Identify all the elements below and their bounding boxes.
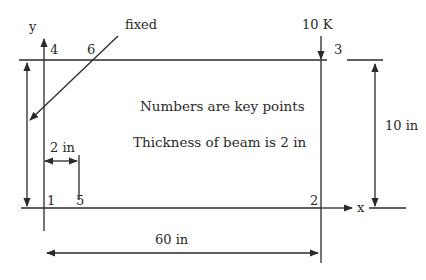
y-axis-label: y: [28, 19, 37, 34]
fixed-label: fixed: [125, 17, 157, 32]
length-dimension-label: 60 in: [155, 232, 189, 247]
note-thickness: Thickness of beam is 2 in: [133, 134, 307, 150]
keypoint-6: 6: [87, 42, 95, 57]
note-keypoints: Numbers are key points: [140, 98, 305, 114]
keypoint-1: 1: [47, 193, 55, 208]
width-dimension-label: 2 in: [50, 140, 76, 155]
keypoint-5: 5: [76, 193, 84, 208]
fixed-leader-arrow: [30, 36, 118, 120]
keypoint-3: 3: [334, 42, 342, 57]
keypoint-2: 2: [310, 193, 318, 208]
x-axis-label: x: [357, 200, 365, 215]
load-label: 10 K: [302, 17, 333, 32]
keypoint-4: 4: [50, 42, 58, 57]
height-dimension-label: 10 in: [385, 118, 419, 133]
beam-diagram: y x fixed 10 K 4 6 3 1 5 2 Numbers are k…: [0, 0, 426, 280]
